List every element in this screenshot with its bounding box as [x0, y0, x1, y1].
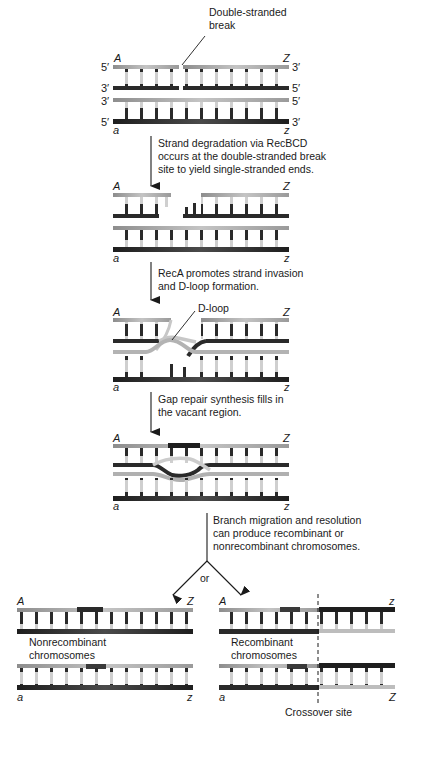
step2-text-1: Strand degradation via RecBCD [158, 137, 307, 150]
label-Z: Z [283, 52, 290, 65]
break-callout-line2: break [209, 19, 235, 32]
step2-text-3: site to yield single-stranded ends. [158, 163, 314, 176]
label-A: A [219, 595, 226, 608]
step5-text-3: nonrecombinant chromosomes. [213, 540, 360, 553]
label-z: z [187, 691, 193, 704]
label-A: A [113, 432, 120, 445]
step2-text-2: occurs at the double-stranded break [158, 150, 326, 163]
crossover-site-label: Crossover site [285, 706, 352, 719]
strand-bottom-right [183, 86, 289, 90]
step5-text-2: can produce recombinant or [213, 527, 344, 540]
end-3prime-r1: 3′ [292, 61, 300, 74]
step-gap-repair [113, 443, 289, 501]
step4-text-1: Gap repair synthesis fills in [158, 393, 283, 406]
end-3prime-1: 3′ [101, 82, 109, 95]
strand-bottom-left [113, 86, 179, 90]
label-Z: Z [389, 691, 396, 704]
label-a: a [219, 691, 225, 704]
end-5prime-1: 5′ [101, 61, 109, 74]
break-callout-line1: Double-stranded [209, 6, 287, 19]
break-pointer [182, 36, 205, 65]
label-z: z [284, 252, 290, 265]
label-z: z [389, 595, 395, 608]
step5-text-1: Branch migration and resolution [213, 514, 361, 527]
label-Z: Z [283, 432, 290, 445]
end-3prime-2: 3′ [101, 95, 109, 108]
end-5prime-2: 5′ [101, 116, 109, 129]
step3-text-2: and D-loop formation. [158, 280, 259, 293]
label-Z: Z [283, 306, 290, 319]
label-z: z [284, 500, 290, 513]
label-z: z [284, 381, 290, 394]
nonrecombinant-label-2: chromosomes [29, 649, 95, 662]
label-Z: Z [187, 595, 194, 608]
label-a: a [113, 381, 119, 394]
arrow-recombinant [207, 561, 241, 595]
label-A: A [113, 180, 120, 193]
step3-text-1: RecA promotes strand invasion [158, 267, 303, 280]
dloop-pointer [172, 311, 195, 340]
step-degradation [113, 193, 289, 252]
end-5prime-r1: 5′ [292, 82, 300, 95]
step-initial [113, 36, 289, 124]
nonrecombinant-label-1: Nonrecombinant [29, 636, 106, 649]
strand-top-left [113, 65, 179, 69]
end-5prime-r2: 5′ [292, 95, 300, 108]
strand-top-right [183, 65, 289, 69]
label-Z: Z [283, 180, 290, 193]
recombinant-label-1: Recombinant [231, 636, 293, 649]
label-a: a [113, 500, 119, 513]
label-A: A [17, 595, 24, 608]
label-z: z [284, 124, 290, 137]
step4-text-2: the vacant region. [158, 406, 241, 419]
dloop-callout: D-loop [198, 302, 229, 315]
step-invasion [113, 311, 289, 382]
label-a: a [17, 691, 23, 704]
label-A: A [113, 306, 120, 319]
branch-or: or [200, 572, 209, 585]
end-3prime-r2: 3′ [292, 116, 300, 129]
label-A: A [114, 52, 121, 65]
label-a: a [113, 252, 119, 265]
recombinant-label-2: chromosomes [231, 649, 297, 662]
label-a: a [113, 124, 119, 137]
